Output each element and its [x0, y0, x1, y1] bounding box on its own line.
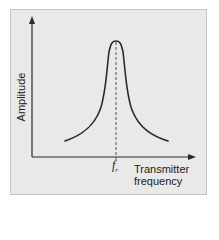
x-axis-label: Transmitter frequency — [134, 163, 189, 187]
fr-subscript: r — [115, 166, 118, 174]
y-axis-label: Amplitude — [15, 73, 27, 122]
resonance-curve — [65, 41, 168, 141]
x-axis-label-line2: frequency — [134, 175, 189, 187]
x-axis-label-line1: Transmitter — [134, 163, 189, 175]
resonance-frequency-label: fr — [112, 158, 118, 174]
